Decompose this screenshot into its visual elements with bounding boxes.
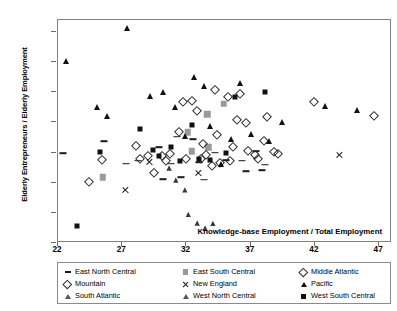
data-point [233, 94, 238, 99]
data-point [156, 147, 163, 149]
legend-item[interactable]: New England [181, 280, 299, 289]
data-point [123, 163, 130, 165]
data-point [84, 177, 94, 187]
data-point [201, 83, 207, 89]
data-point [131, 141, 141, 151]
x-tick-label: 37 [230, 245, 270, 254]
data-point [189, 123, 194, 128]
x-tick-mark [185, 242, 186, 246]
data-point [63, 58, 69, 64]
plot-frame: Knowledge-base Employment / Total Employ… [57, 19, 391, 242]
data-point [237, 80, 243, 86]
legend-marker-icon [181, 280, 190, 289]
data-point [322, 103, 328, 109]
data-point [100, 174, 107, 181]
data-point [138, 127, 143, 132]
data-point [160, 178, 167, 180]
legend-item-label: West South Central [311, 292, 375, 299]
y-tick-mark [51, 152, 56, 153]
data-point [94, 104, 100, 110]
x-tick-label: 47 [358, 245, 397, 254]
data-point [182, 133, 188, 139]
filled-square-icon [301, 294, 306, 299]
data-point [201, 179, 208, 181]
x-tick-mark [314, 242, 315, 246]
data-point [191, 74, 197, 80]
x-tick-label: 22 [37, 245, 77, 254]
data-point [212, 130, 222, 140]
legend-item[interactable]: South Atlantic [63, 292, 181, 301]
data-point [207, 158, 212, 163]
y-tick-mark [51, 91, 56, 92]
data-point [204, 111, 211, 118]
data-point [187, 96, 197, 106]
data-point [104, 113, 110, 119]
x-axis-title: Knowledge-base Employment / Total Employ… [198, 227, 382, 236]
legend-item[interactable]: East South Central [181, 268, 299, 277]
data-point [369, 111, 379, 121]
data-point [182, 187, 188, 193]
data-point [211, 152, 218, 154]
legend-item[interactable]: Middle Atlantic [299, 268, 393, 277]
data-point [146, 158, 153, 165]
x-tick-mark [121, 242, 122, 246]
data-point [188, 148, 195, 155]
data-point [210, 85, 220, 95]
x-tick-mark [250, 242, 251, 246]
data-point [189, 138, 196, 140]
data-point [97, 155, 107, 165]
data-point [169, 145, 174, 150]
data-point [195, 220, 201, 226]
data-point [242, 171, 249, 173]
legend-item-label: West North Central [193, 292, 256, 299]
data-point [157, 154, 162, 159]
open-triangle-icon [183, 294, 189, 299]
legend-item[interactable]: West North Central [181, 292, 299, 301]
data-point [173, 177, 179, 183]
data-point [149, 168, 159, 178]
x-tick-label: 27 [101, 245, 141, 254]
data-point [147, 93, 153, 99]
x-tick-mark [57, 242, 58, 246]
chart-legend: East North CentralEast South CentralMidd… [57, 262, 391, 304]
data-point [178, 158, 183, 163]
legend-item-label: Middle Atlantic [311, 268, 359, 275]
data-point [228, 136, 234, 142]
open-diamond-icon [63, 279, 72, 288]
y-tick-mark [51, 61, 56, 62]
data-point [279, 119, 285, 125]
data-point [186, 211, 192, 217]
legend-item-label: Mountain [75, 280, 105, 287]
data-point [336, 151, 343, 158]
legend-item[interactable]: Mountain [63, 280, 181, 289]
y-tick-mark [51, 242, 56, 243]
x-tick-mark [378, 242, 379, 246]
legend-item[interactable]: East North Central [63, 268, 181, 277]
data-point [224, 150, 229, 155]
scatter-chart-figure: Elderly Entrepreneurs / Elderly Employme… [0, 0, 397, 311]
legend-marker-icon [63, 292, 72, 301]
data-point [354, 107, 360, 113]
data-point [220, 100, 227, 107]
open-diamond-icon [299, 267, 308, 276]
legend-item[interactable]: West South Central [299, 292, 393, 301]
data-point [231, 115, 241, 125]
filled-triangle-icon [301, 282, 307, 287]
data-point [248, 131, 254, 137]
data-point [207, 123, 213, 129]
data-point [238, 160, 245, 162]
plot-area [58, 20, 390, 241]
data-point [101, 140, 108, 142]
legend-marker-icon [181, 292, 190, 301]
legend-item-label: East South Central [193, 268, 255, 275]
data-point [210, 220, 216, 226]
data-point [172, 104, 178, 110]
legend-marker-icon [63, 268, 72, 277]
legend-marker-icon [181, 268, 190, 277]
y-tick-mark [51, 121, 56, 122]
data-point [228, 142, 238, 152]
dash-icon [65, 271, 71, 273]
data-point [309, 97, 319, 107]
data-point [178, 97, 188, 107]
legend-item[interactable]: Pacific [299, 280, 393, 289]
